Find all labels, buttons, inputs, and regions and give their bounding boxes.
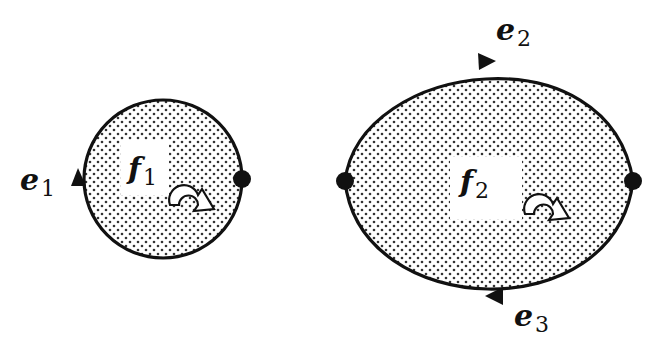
edge-e2-arrow-icon xyxy=(478,53,496,70)
vertex-v1 xyxy=(233,170,251,188)
face-f2: f2 e2 e3 xyxy=(336,12,642,337)
face-f1: f1 e1 xyxy=(20,100,251,258)
diagram-canvas: f1 e1 f2 e2 e3 xyxy=(0,0,672,347)
edge-e1-label: e1 xyxy=(20,162,55,201)
vertex-v3 xyxy=(624,172,642,190)
vertex-v2 xyxy=(336,172,354,190)
edge-e2-label: e2 xyxy=(496,12,531,51)
edge-e3-label: e3 xyxy=(514,298,549,337)
